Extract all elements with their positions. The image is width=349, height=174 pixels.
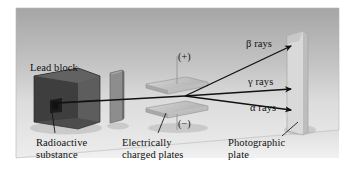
radioactivity-diagram: Lead block Radioactive substance Electri… [0,0,349,174]
lead-block-label: Lead block [30,62,78,74]
radioactive-substance-label: Radioactive substance [36,137,87,161]
negative-polarity-label: (−) [178,118,191,129]
lead-block-shape [34,68,100,129]
collimator-slit-plate [110,70,124,123]
beta-rays-label: β rays [246,38,272,50]
gamma-rays-label: γ rays [248,76,273,88]
positive-polarity-label: (+) [178,51,191,62]
alpha-rays-label: α rays [250,102,276,114]
photographic-plate-label: Photographic plate [228,137,285,161]
radioactive-source-cavity [50,98,62,113]
charged-plates-label: Electrically charged plates [122,137,184,161]
